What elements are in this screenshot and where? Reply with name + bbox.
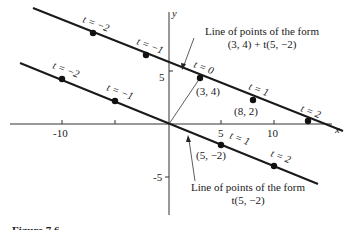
lower-line-caption-2: t(5, −2) — [231, 194, 264, 207]
upper-point-t-1 — [250, 97, 256, 103]
upper-point-t-neg2 — [90, 30, 96, 36]
lower-point-t-1 — [218, 142, 224, 148]
upper-point-t-0 — [197, 75, 203, 81]
upper-line-caption-2: (3, 4) + t(5, −2) — [228, 38, 297, 51]
lower-caption-arrow — [189, 140, 195, 181]
lower-line-caption-1: Line of points of the form — [191, 181, 305, 193]
y-tick-label-neg5: -5 — [153, 171, 163, 183]
y-axis-label: y — [171, 8, 177, 19]
parametric-lines-diagram: -10 5 10 5 -5 x y t = −2 t = −1 t = 0 t … — [0, 0, 349, 230]
upper-t-label-neg2: t = −2 — [81, 14, 111, 34]
coord-label-3-4: (3, 4) — [196, 85, 220, 98]
lower-arrow-head-icon — [186, 135, 191, 142]
y-tick-label-5: 5 — [159, 71, 165, 83]
upper-point-t-2 — [305, 118, 311, 124]
x-tick-label-5: 5 — [218, 127, 224, 139]
coord-label-5-neg2: (5, −2) — [196, 149, 226, 162]
lower-t-label-2: t = 2 — [269, 148, 293, 166]
coord-label-8-2: (8, 2) — [234, 105, 258, 118]
upper-line-caption-1: Line of points of the form — [205, 25, 319, 37]
figure-caption: Figure 7.6 — [12, 224, 60, 230]
upper-t-label-neg1: t = −1 — [135, 36, 165, 56]
upper-point-t-neg1 — [143, 52, 149, 58]
lower-point-t-neg1 — [112, 98, 118, 104]
x-tick-label-10: 10 — [267, 127, 279, 139]
x-tick-label-neg10: -10 — [53, 127, 68, 139]
upper-caption-arrow — [184, 38, 194, 65]
lower-t-label-1: t = 1 — [228, 130, 251, 148]
upper-t-label-1: t = 1 — [247, 81, 270, 99]
lower-point-t-2 — [271, 163, 277, 169]
lower-point-t-neg2 — [59, 76, 65, 82]
upper-t-label-0: t = 0 — [192, 59, 216, 77]
